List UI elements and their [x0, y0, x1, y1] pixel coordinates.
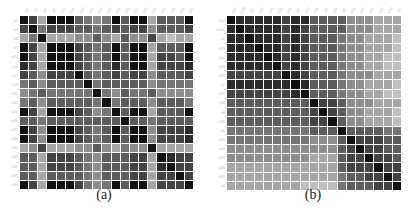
heatmap-cell — [273, 80, 281, 88]
heatmap-cell — [365, 182, 373, 190]
heatmap-cell — [374, 108, 382, 116]
heatmap-cell — [227, 53, 235, 61]
heatmap-cell — [273, 44, 281, 52]
heatmap-cell — [374, 182, 382, 190]
heatmap-cell — [29, 80, 37, 88]
heatmap-cell — [38, 34, 46, 42]
heatmap-cell — [328, 163, 336, 171]
heatmap-cell — [347, 127, 355, 135]
heatmap-cell — [185, 108, 193, 116]
row-label: s14 — [4, 61, 18, 70]
heatmap-cell — [47, 135, 55, 143]
heatmap-cell — [291, 34, 299, 42]
heatmap-cell — [167, 62, 175, 70]
heatmap-cell — [319, 71, 327, 79]
heatmap-cell — [29, 108, 37, 116]
heatmap-cell — [338, 71, 346, 79]
heatmap-cell — [301, 34, 309, 42]
heatmap-cell — [148, 181, 156, 189]
heatmap-cell — [93, 89, 101, 97]
heatmap-cell — [75, 62, 83, 70]
heatmap-cell — [356, 16, 364, 24]
heatmap-cell — [130, 126, 138, 134]
heatmap-cell — [356, 99, 364, 107]
heatmap-cell — [185, 98, 193, 106]
heatmap-cell — [148, 71, 156, 79]
heatmap-cell — [84, 126, 92, 134]
heatmap-cell — [310, 44, 318, 52]
heatmap-cell — [384, 117, 392, 125]
heatmap-cell — [66, 25, 74, 33]
heatmap-cell — [176, 135, 184, 143]
heatmap-cell — [255, 127, 263, 135]
heatmap-cell — [176, 25, 184, 33]
heatmap-cell — [310, 34, 318, 42]
heatmap-cell — [130, 34, 138, 42]
heatmap-cell — [338, 90, 346, 98]
heatmap-cell — [236, 44, 244, 52]
heatmap-cell — [29, 62, 37, 70]
heatmap-cell — [356, 34, 364, 42]
heatmap-cell — [112, 16, 120, 24]
row-label: s13 — [4, 52, 18, 61]
heatmap-cell — [57, 144, 65, 152]
heatmap-cell — [356, 154, 364, 162]
row-label: s4 — [211, 181, 225, 190]
heatmap-cell — [66, 117, 74, 125]
heatmap-cell — [319, 136, 327, 144]
heatmap-cell — [245, 25, 253, 33]
heatmap-cell — [245, 108, 253, 116]
heatmap-cell — [157, 181, 165, 189]
heatmap-cell — [227, 136, 235, 144]
heatmap-cell — [227, 117, 235, 125]
heatmap-cell — [365, 80, 373, 88]
heatmap-cell — [93, 16, 101, 24]
heatmap-cell — [102, 172, 110, 180]
heatmap-cell — [264, 136, 272, 144]
heatmap-cell — [167, 153, 175, 161]
heatmap-cell — [384, 71, 392, 79]
heatmap-cell — [282, 44, 290, 52]
heatmap-cell — [93, 53, 101, 61]
heatmap-cell — [264, 154, 272, 162]
heatmap-cell — [130, 172, 138, 180]
heatmap-cell — [291, 117, 299, 125]
heatmap-cell — [264, 53, 272, 61]
heatmap-cell — [301, 127, 309, 135]
heatmap-cell — [102, 163, 110, 171]
heatmap-cell — [273, 25, 281, 33]
heatmap-cell — [57, 89, 65, 97]
heatmap-cell — [130, 53, 138, 61]
heatmap-cell — [102, 108, 110, 116]
heatmap-cell — [227, 154, 235, 162]
heatmap-cell — [157, 108, 165, 116]
heatmap-cell — [338, 62, 346, 70]
heatmap-cell — [328, 71, 336, 79]
heatmap-cell — [384, 80, 392, 88]
row-label: s44 — [211, 53, 225, 62]
heatmap-cell — [47, 163, 55, 171]
heatmap-cell — [301, 90, 309, 98]
heatmap-cell — [84, 16, 92, 24]
heatmap-cell — [282, 173, 290, 181]
heatmap-cell — [176, 126, 184, 134]
heatmap-cell — [148, 153, 156, 161]
heatmap-cell — [255, 117, 263, 125]
heatmap-cell — [264, 108, 272, 116]
heatmap-cell — [93, 43, 101, 51]
heatmap-cell — [130, 62, 138, 70]
heatmap-cell — [66, 153, 74, 161]
heatmap-cell — [291, 145, 299, 153]
heatmap-cell — [301, 136, 309, 144]
heatmap-cell — [236, 34, 244, 42]
heatmap-cell — [310, 154, 318, 162]
heatmap-cell — [47, 108, 55, 116]
heatmap-cell — [347, 173, 355, 181]
heatmap-cell — [102, 153, 110, 161]
heatmap-cell — [255, 163, 263, 171]
heatmap-cell — [112, 43, 120, 51]
heatmap-cell — [245, 127, 253, 135]
heatmap-cell — [29, 153, 37, 161]
heatmap-cell — [139, 80, 147, 88]
heatmap-cell — [273, 16, 281, 24]
